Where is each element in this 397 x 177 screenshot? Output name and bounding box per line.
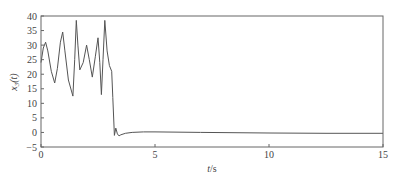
x-tick-label: 0 — [39, 149, 44, 160]
y-tick-label: 15 — [27, 83, 37, 94]
y-axis-label: x3(t) — [8, 73, 21, 92]
y-tick-label: 40 — [27, 11, 37, 22]
y-tick-label: 25 — [27, 54, 37, 65]
x-tick-label: 15 — [378, 149, 388, 160]
y-tick-label: 0 — [32, 127, 37, 138]
y-tick-label: −5 — [26, 142, 37, 153]
series-x3-line — [41, 20, 383, 135]
line-chart: −50510152025303540 051015 t/s x3(t) — [0, 0, 397, 177]
x-tick-label: 10 — [264, 149, 274, 160]
y-tick-label: 30 — [27, 40, 37, 51]
y-tick-label: 35 — [27, 25, 37, 36]
y-tick-label: 20 — [27, 69, 37, 80]
x-axis-label: t/s — [207, 163, 217, 174]
x-axis-ticks: 051015 — [39, 144, 389, 160]
y-tick-label: 5 — [32, 112, 37, 123]
y-tick-label: 10 — [27, 98, 37, 109]
plot-frame — [41, 16, 383, 147]
x-tick-label: 5 — [153, 149, 158, 160]
